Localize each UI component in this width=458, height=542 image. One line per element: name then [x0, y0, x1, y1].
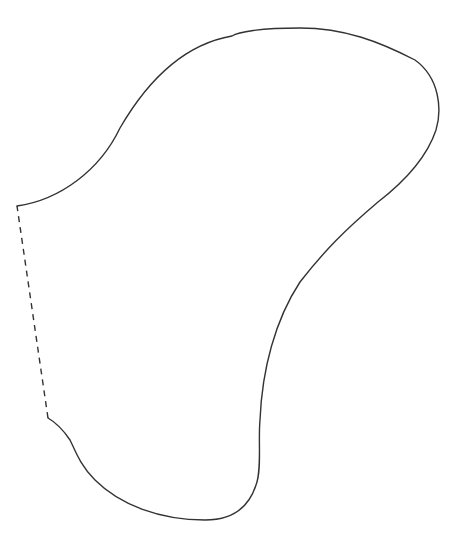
figure-canvas: Freeform closed outline with one dashed …: [0, 0, 458, 542]
outline-drawing: [0, 0, 458, 542]
dashed-edge: [17, 206, 48, 418]
solid-outline: [17, 28, 439, 520]
